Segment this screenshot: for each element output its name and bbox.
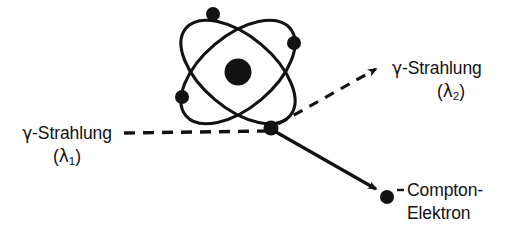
gamma-symbol-scattered: γ <box>392 58 402 78</box>
electron-left <box>175 90 189 104</box>
lambda-symbol-2: λ <box>443 81 453 101</box>
paren-close-lambda2: ) <box>459 81 465 101</box>
electron-interaction-point <box>264 121 279 136</box>
incoming-gamma-label-text: -Strahlung <box>32 123 112 143</box>
compton-effect-diagram: γ-Strahlung (λ1) γ-Strahlung (λ2) Compto… <box>0 0 518 229</box>
scattered-gamma-label: γ-Strahlung (λ2) <box>392 57 516 108</box>
scattered-gamma-ray <box>278 69 376 124</box>
atom-nucleus <box>225 59 252 86</box>
lambda-symbol-1: λ <box>59 146 69 166</box>
electron-top <box>206 7 220 21</box>
compton-electron-dot <box>380 190 394 204</box>
electron-right <box>287 36 301 50</box>
incoming-gamma-label-line1: γ-Strahlung <box>8 122 126 145</box>
incoming-gamma-wavelength: (λ1) <box>8 145 126 173</box>
incoming-gamma-label: γ-Strahlung (λ1) <box>8 122 126 173</box>
scattered-gamma-label-line1: γ-Strahlung <box>392 57 516 80</box>
gamma-symbol-incoming: γ <box>22 123 32 143</box>
compton-electron-label-line2: Elektron <box>407 202 483 225</box>
paren-close-lambda1: ) <box>75 146 81 166</box>
atom-group <box>163 1 313 144</box>
compton-electron-label: Compton- Elektron <box>407 179 483 225</box>
compton-electron-label-line1: Compton- <box>407 179 483 202</box>
compton-electron-ray <box>276 132 376 189</box>
scattered-gamma-wavelength: (λ2) <box>392 80 510 108</box>
scattered-gamma-label-text: -Strahlung <box>402 58 482 78</box>
incoming-gamma-ray <box>124 131 268 133</box>
